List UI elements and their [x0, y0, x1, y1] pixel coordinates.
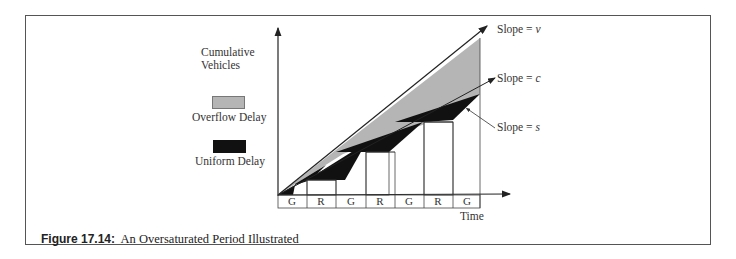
phase-label: R — [317, 195, 325, 207]
slope-s-label: Slope = s — [497, 121, 540, 133]
phase-label: R — [434, 195, 442, 207]
departure-step — [307, 180, 336, 195]
cumulative-vehicles-diagram: G R G R G R G — [0, 0, 736, 259]
departure-step — [366, 152, 389, 195]
slope-c-label: Slope = c — [497, 72, 541, 84]
slope-v-var: v — [535, 23, 540, 35]
phase-label: G — [463, 195, 471, 207]
phase-label: R — [376, 195, 384, 207]
slope-s-var: s — [535, 121, 539, 133]
phase-label: G — [288, 195, 296, 207]
caption-text: An Oversaturated Period Illustrated — [121, 232, 299, 246]
x-axis-label: Time — [460, 210, 484, 222]
phase-label: G — [405, 195, 413, 207]
slope-s-pointer — [469, 110, 495, 128]
figure-caption: Figure 17.14: An Oversaturated Period Il… — [41, 232, 299, 247]
slope-v-prefix: Slope = — [497, 23, 535, 35]
slope-c-var: c — [535, 72, 540, 84]
departure-step — [424, 122, 453, 195]
caption-number: Figure 17.14: — [41, 232, 115, 246]
slope-v-label: Slope = v — [497, 23, 541, 35]
phase-label: G — [347, 195, 355, 207]
slope-c-prefix: Slope = — [497, 72, 535, 84]
slope-s-prefix: Slope = — [497, 121, 535, 133]
